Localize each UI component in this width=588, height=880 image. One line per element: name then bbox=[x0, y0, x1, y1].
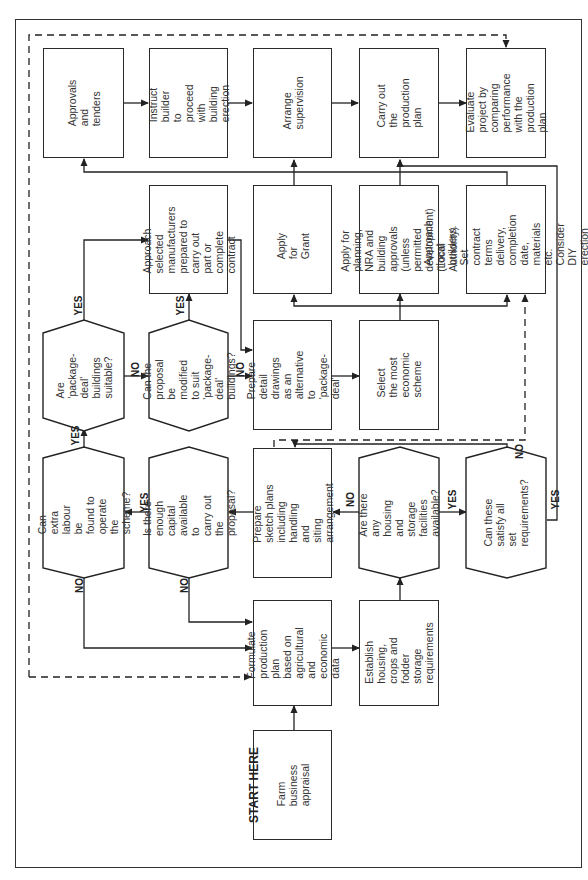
label-no-housing: NO bbox=[345, 492, 356, 507]
node-approach-builders: Approach local builders. Set contract te… bbox=[466, 185, 546, 294]
decision-modify-proposal: Can the proposal be modified to suit 'pa… bbox=[149, 320, 228, 431]
node-establish-requirements: Establish housing, crops and fodder stor… bbox=[359, 600, 439, 706]
node-arrange-supervision: Arrange supervision bbox=[253, 48, 332, 158]
label-no-labour: NO bbox=[74, 578, 85, 593]
label-no-satisfy: NO bbox=[514, 444, 525, 459]
decision-package-suitable: Are 'package-deal' buildings suitable? bbox=[43, 320, 124, 431]
label-yes-capital: YES bbox=[139, 492, 150, 512]
label-yes-satisfy: YES bbox=[550, 489, 561, 509]
node-approvals-tenders: Approvals and tenders bbox=[43, 48, 124, 158]
node-formulate-plan: Formulate production plan based on agric… bbox=[253, 600, 332, 706]
label-yes-housing: YES bbox=[447, 489, 458, 509]
node-detail-drawings: Prepare detail drawings as an alternativ… bbox=[253, 320, 332, 430]
node-sketch-plans: Prepare sketch plans including handling … bbox=[253, 448, 332, 578]
label-no-modify: NO bbox=[235, 362, 246, 377]
label-no-package: NO bbox=[130, 362, 141, 377]
node-approach-manufacturers: Approach selected manufacturers prepared… bbox=[149, 185, 228, 294]
label-yes-package: YES bbox=[73, 295, 84, 315]
decision-extra-labour: Can extra labour be found to operate the… bbox=[43, 447, 124, 578]
node-apply-grant: Apply for Grant bbox=[253, 185, 332, 294]
decision-satisfy-requirements: Can these satisfy all set requirements? bbox=[466, 447, 546, 578]
decision-enough-capital: Is there enough capital available to car… bbox=[149, 447, 228, 578]
label-yes-modify: YES bbox=[175, 295, 186, 315]
label-no-capital: NO bbox=[179, 578, 190, 593]
node-evaluate-project: Evaluate project by comparing performanc… bbox=[466, 48, 546, 158]
start-here-label: START HERE bbox=[247, 747, 261, 823]
decision-housing-available: Are there any housing and storage facili… bbox=[359, 447, 439, 578]
node-farm-appraisal: Farm business appraisal bbox=[253, 730, 332, 840]
node-select-scheme: Select the most economic scheme bbox=[359, 320, 439, 430]
node-instruct-builder: Instruct builder to proceed with buildin… bbox=[149, 48, 228, 158]
node-carry-out-plan: Carry out the production plan bbox=[359, 48, 439, 158]
label-yes-labour: YES bbox=[70, 425, 81, 445]
